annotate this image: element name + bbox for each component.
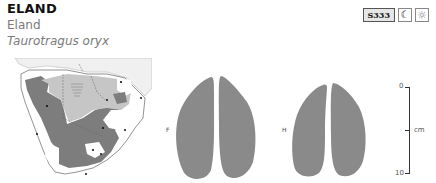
map-graphic — [7, 58, 152, 180]
hind-track-label: H — [282, 126, 287, 133]
scale-tick-top — [405, 87, 410, 88]
latin-name: Taurotragus oryx — [7, 34, 109, 48]
badge-group: S333 ☾ ☼ — [363, 8, 429, 22]
scale-max-label: 10 — [395, 169, 404, 177]
hind-track — [289, 81, 371, 183]
species-code-badge: S333 — [363, 8, 395, 22]
scale-min-label: 0 — [399, 82, 403, 90]
scale-tick-bottom — [405, 173, 410, 174]
species-title: ELAND — [7, 1, 57, 16]
scale-unit-label: cm — [414, 126, 425, 134]
sun-icon: ☼ — [415, 8, 429, 22]
distribution-map — [7, 58, 152, 180]
front-track — [173, 74, 261, 183]
moon-icon: ☾ — [398, 8, 412, 22]
hind-hoof-print — [289, 81, 371, 181]
front-track-label: F — [166, 126, 169, 133]
scale-bar: 0 cm 10 — [395, 84, 435, 180]
front-hoof-print — [173, 74, 261, 182]
common-name: Eland — [7, 18, 41, 32]
scale-tick-mid — [405, 130, 410, 131]
